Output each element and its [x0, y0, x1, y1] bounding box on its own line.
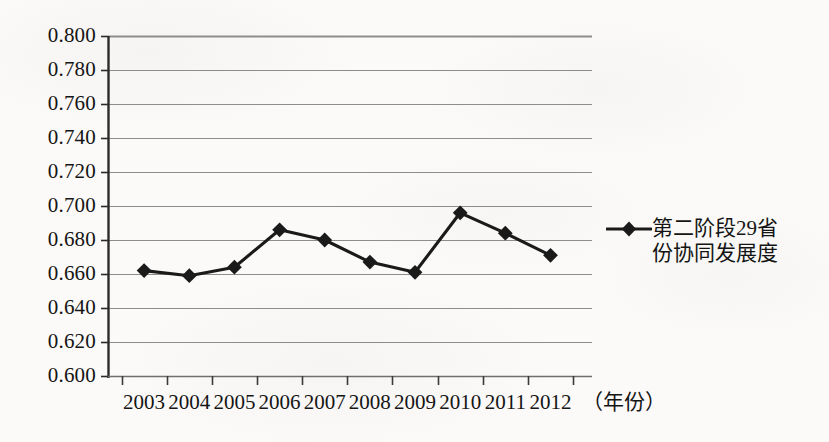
chart-legend: 第二阶段29省 份协同发展度 [606, 216, 804, 266]
y-tick-label: 0.680 [10, 229, 96, 250]
data-point-marker [137, 263, 152, 278]
chart-figure: 0.8000.7800.7600.7400.7200.7000.6800.660… [0, 0, 829, 442]
data-point-marker [498, 226, 513, 241]
y-tick-label: 0.700 [10, 195, 96, 216]
data-point-marker [543, 248, 558, 263]
y-tick-label: 0.640 [10, 297, 96, 318]
y-tick-label: 0.800 [10, 25, 96, 46]
y-tick-label: 0.660 [10, 263, 96, 284]
series-line-group [137, 205, 558, 283]
x-tick-marks [123, 376, 574, 385]
y-tick-label: 0.600 [10, 365, 96, 386]
y-tick-label: 0.760 [10, 93, 96, 114]
data-point-marker [182, 268, 197, 283]
legend-label-line-2: 份协同发展度 [652, 241, 804, 266]
y-tick-label: 0.620 [10, 331, 96, 352]
gridlines [108, 37, 592, 377]
data-point-marker [363, 255, 378, 270]
x-axis-title: （年份） [582, 392, 666, 413]
y-tick-label: 0.740 [10, 127, 96, 148]
data-point-marker [317, 233, 332, 248]
x-tick-label: 2012 [522, 392, 578, 413]
series-markers [137, 205, 558, 283]
y-tick-marks [101, 37, 108, 377]
y-tick-label: 0.780 [10, 59, 96, 80]
y-tick-label: 0.720 [10, 161, 96, 182]
legend-label-line-1: 第二阶段29省 [652, 216, 804, 241]
legend-marker-swatch [606, 216, 652, 242]
legend-label: 第二阶段29省 份协同发展度 [652, 216, 804, 266]
series-line [144, 213, 550, 276]
